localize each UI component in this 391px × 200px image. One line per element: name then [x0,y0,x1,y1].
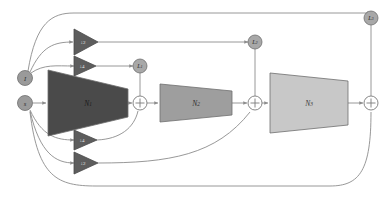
downsample-2-upper-shape [74,29,98,55]
downsample-4-upper-shape [74,56,96,76]
downsample-2-upper-label: ↓2 [81,40,87,45]
loss-3-label: L3 [367,15,374,21]
loss-1-label: L1 [136,63,143,69]
downsample-4-lower-shape [74,130,97,150]
diagram-svg: N1 N2 N3 ↓2 ↓4 ↓4 ↓2 I [0,0,391,200]
downsample-4-lower-label: ↓4 [80,138,86,143]
figure-canvas: N1 N2 N3 ↓2 ↓4 ↓4 ↓2 I [0,0,391,200]
downsample-2-lower-shape [74,152,98,174]
loss-2-label: L2 [251,39,258,45]
downsample-4-upper-label: ↓4 [80,64,86,69]
input-node-group: I s [18,71,33,111]
wire-i-to-down2-upper [30,42,73,72]
downsample-2-lower-label: ↓2 [81,161,87,166]
block-group: N1 N2 N3 [48,70,348,136]
